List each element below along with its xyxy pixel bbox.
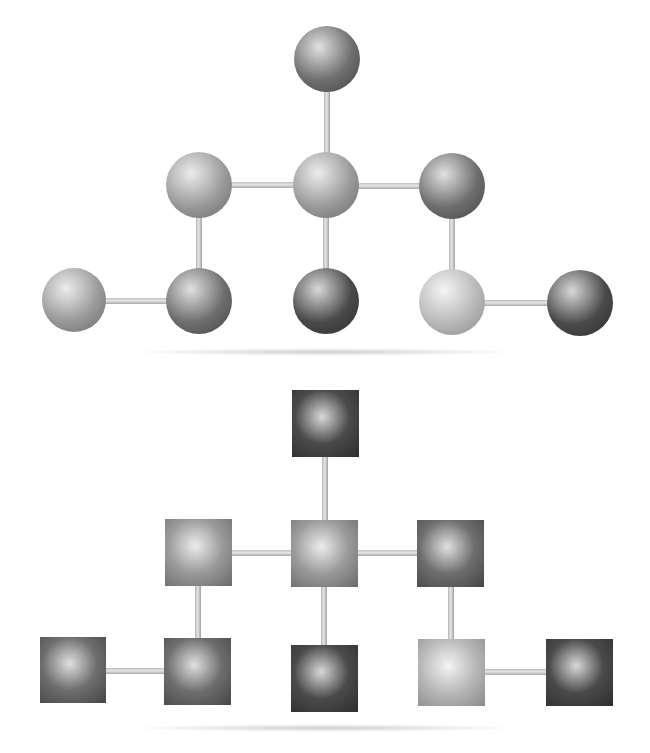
cube-node-bot-center: [291, 645, 358, 712]
sphere-node-bot-center: [293, 268, 359, 334]
sphere-node-mid-left: [166, 152, 232, 218]
sphere-node-bot-far-left: [42, 268, 106, 332]
sphere-node-top: [294, 26, 360, 92]
sphere-node-mid-center: [293, 152, 359, 218]
sphere-node-mid-right: [419, 153, 485, 219]
ground-shadow-spheres: [130, 348, 520, 356]
cube-node-bot-left: [164, 638, 231, 705]
cube-node-bot-far-left: [40, 637, 106, 703]
cube-node-bot-right: [418, 639, 485, 706]
cube-node-mid-right: [417, 520, 484, 587]
ground-shadow-cubes: [130, 724, 520, 732]
sphere-node-bot-far-right: [547, 270, 613, 336]
cube-node-mid-left: [165, 519, 232, 586]
cube-node-top: [292, 390, 359, 457]
cube-node-bot-far-right: [546, 639, 613, 706]
sphere-node-bot-left: [166, 268, 232, 334]
cube-node-mid-center: [291, 520, 358, 587]
sphere-node-bot-right: [419, 269, 485, 335]
